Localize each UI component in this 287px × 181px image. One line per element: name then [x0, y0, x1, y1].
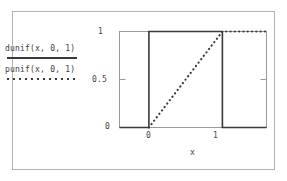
- legend-entry-punif: punif(x, 0, 1): [5, 65, 89, 82]
- figure-canvas: dunif(x, 0, 1) punif(x, 0, 1): [0, 0, 287, 181]
- solid-line-sample: [7, 57, 77, 59]
- legend-label-punif: punif(x, 0, 1): [5, 65, 89, 75]
- dotted-line-sample: [7, 78, 77, 80]
- legend-swatch-dunif: [5, 55, 89, 61]
- legend-label-dunif: dunif(x, 0, 1): [5, 44, 89, 54]
- figure-panel: [12, 11, 275, 170]
- legend: dunif(x, 0, 1) punif(x, 0, 1): [5, 44, 89, 86]
- legend-swatch-punif: [5, 76, 89, 82]
- legend-entry-dunif: dunif(x, 0, 1): [5, 44, 89, 61]
